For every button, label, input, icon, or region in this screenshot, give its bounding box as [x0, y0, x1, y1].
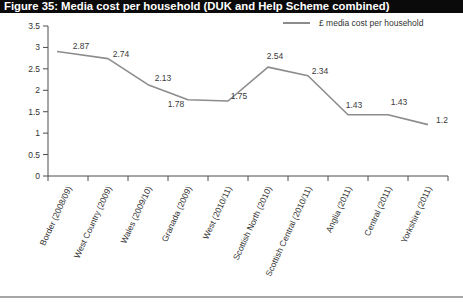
- x-category-label: West Country (2009): [72, 184, 114, 259]
- y-tick-label: 3: [35, 42, 40, 52]
- data-label: 1.2: [436, 115, 448, 125]
- x-category-label: Central (2011): [362, 184, 394, 237]
- x-category-label: Wales (2009/10): [119, 184, 154, 245]
- figure-panel: Figure 35: Media cost per household (DUK…: [0, 0, 463, 308]
- x-category-label: Anglia (2011): [324, 184, 354, 234]
- x-category-label: Scottish North (2010): [231, 184, 274, 261]
- data-label: 1.43: [346, 100, 363, 110]
- y-tick-label: 2.5: [28, 64, 40, 74]
- x-category-label: Yorkshire (2011): [399, 184, 434, 244]
- data-label: 1.78: [168, 99, 185, 109]
- y-tick-label: 2: [35, 85, 40, 95]
- bottom-separator: [0, 296, 463, 298]
- series-line: [57, 52, 428, 125]
- data-label: 2.13: [155, 73, 172, 83]
- line-chart: 00.511.522.533.5Border (2008/09)West Cou…: [0, 0, 463, 308]
- data-label: 2.74: [113, 49, 130, 59]
- legend-line-icon: [283, 22, 310, 24]
- x-category-label: Border (2008/09): [38, 184, 74, 247]
- y-tick-label: 0: [35, 171, 40, 181]
- x-category-label: West (2010/11): [201, 184, 234, 240]
- data-label: 2.87: [73, 41, 90, 51]
- x-category-label: Granada (2009): [159, 184, 193, 243]
- data-label: 1.75: [231, 91, 248, 101]
- x-category-label: Scottish Central (2010/11): [263, 184, 314, 277]
- y-tick-label: 1.5: [28, 107, 40, 117]
- data-label: 1.43: [391, 97, 408, 107]
- y-tick-label: 3.5: [28, 21, 40, 31]
- y-tick-label: 0.5: [28, 150, 40, 160]
- chart-legend: £ media cost per household: [283, 17, 423, 29]
- data-label: 2.34: [312, 66, 329, 76]
- y-tick-label: 1: [35, 128, 40, 138]
- legend-series-label: £ media cost per household: [319, 18, 423, 28]
- data-label: 2.54: [267, 51, 284, 61]
